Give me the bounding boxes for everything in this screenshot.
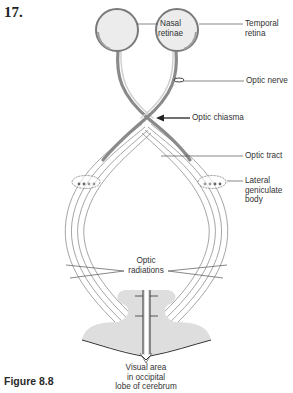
- left-eyeball: [96, 9, 138, 51]
- label-lateral-geniculate-body: Lateral geniculate body: [245, 176, 282, 205]
- label-visual-area: Visual area in occipital lobe of cerebru…: [106, 363, 186, 392]
- label-temporal-retina: Temporal retina: [245, 19, 279, 38]
- optic-chiasma-arrow: [156, 115, 190, 122]
- figure-caption: Figure 8.8: [4, 375, 54, 387]
- occipital-cortex: [82, 290, 211, 360]
- optic-nerve-marker: [174, 78, 184, 82]
- label-optic-radiations: Optic radiations: [124, 256, 168, 275]
- left-lateral-geniculate-body: [72, 176, 100, 189]
- label-optic-chiasma: Optic chiasma: [192, 113, 244, 123]
- label-nasal-retinae: Nasal retinae: [158, 19, 183, 38]
- label-optic-tract: Optic tract: [245, 151, 282, 161]
- label-optic-nerve: Optic nerve: [246, 76, 288, 86]
- right-lateral-geniculate-body: [198, 176, 226, 189]
